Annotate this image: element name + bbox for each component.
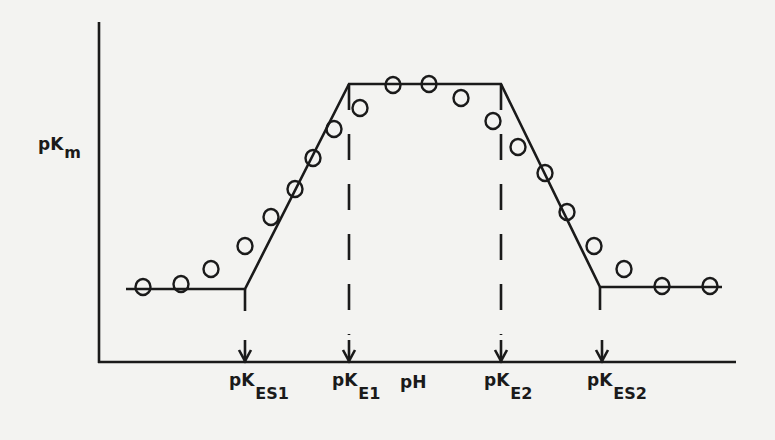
- data-point: [327, 121, 342, 137]
- pkm-ph-diagram: [0, 0, 775, 440]
- data-point: [617, 261, 632, 277]
- data-point: [264, 209, 279, 225]
- data-point: [238, 238, 253, 254]
- data-point: [454, 90, 469, 106]
- x-axis-label: pH: [400, 372, 426, 392]
- marker-label-e2: pKE2: [484, 370, 532, 390]
- marker-label-es1: pKES1: [229, 370, 289, 390]
- data-point: [353, 100, 368, 116]
- y-axis-label: pKm: [38, 134, 81, 154]
- arrow-e2: [495, 340, 507, 361]
- data-point: [204, 261, 219, 277]
- arrow-e1: [343, 340, 355, 361]
- arrow-es1: [239, 340, 251, 361]
- marker-label-es2: pKES2: [587, 370, 647, 390]
- data-point: [511, 139, 526, 155]
- data-point: [136, 279, 151, 295]
- arrow-es2: [596, 340, 608, 361]
- data-point: [587, 238, 602, 254]
- data-point: [486, 113, 501, 129]
- marker-label-e1: pKE1: [332, 370, 380, 390]
- asymptote-lines: [126, 84, 722, 289]
- data-points: [136, 76, 718, 295]
